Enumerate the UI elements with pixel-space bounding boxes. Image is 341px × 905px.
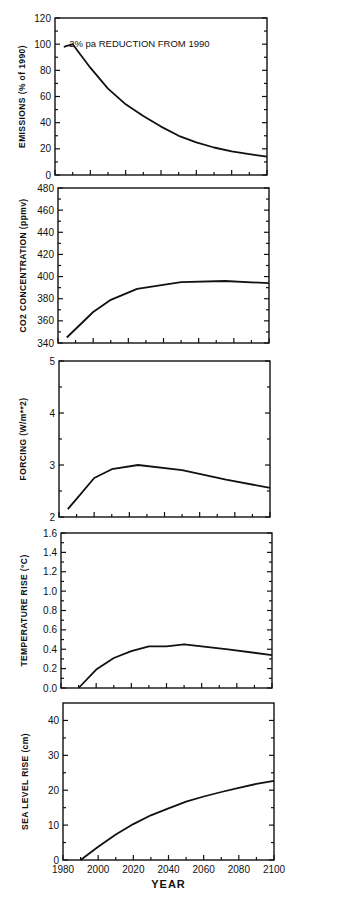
plot-frame: [58, 188, 269, 343]
series-line: [67, 281, 269, 338]
x-axis-label: YEAR: [151, 878, 186, 890]
y-tick-label: 1.4: [43, 547, 57, 558]
y-tick-label: 360: [37, 315, 54, 326]
y-tick-label: 0.0: [43, 683, 57, 694]
x-tick-label: 2020: [122, 864, 145, 875]
series-line: [68, 465, 270, 509]
x-tick-label: 2040: [157, 864, 180, 875]
y-tick-label: 30: [48, 750, 60, 761]
y-tick-label: 480: [37, 183, 54, 194]
y-tick-label: 0.6: [43, 624, 57, 635]
y-axis-label: SEA LEVEL RISE (cm): [20, 733, 30, 830]
x-tick-label: 2080: [228, 864, 251, 875]
y-tick-label: 0: [45, 170, 51, 181]
y-tick-label: 1.2: [43, 566, 57, 577]
x-tick-label: 2000: [87, 864, 110, 875]
x-tick-label: 2100: [263, 864, 286, 875]
y-tick-label: 40: [40, 117, 52, 128]
y-tick-label: 3: [49, 460, 55, 471]
panel-1: 020406080100120EMISSIONS (% of 1990)2% p…: [17, 13, 267, 181]
y-tick-label: 20: [48, 785, 60, 796]
y-tick-label: 20: [40, 143, 52, 154]
series-line: [79, 644, 272, 688]
panel-4: 0.00.20.40.60.81.01.21.41.6TEMPERATURE R…: [19, 528, 272, 694]
y-tick-label: 120: [34, 13, 51, 24]
y-tick-label: 4: [49, 408, 55, 419]
x-tick-label: 2060: [193, 864, 216, 875]
y-tick-label: 0.4: [43, 644, 57, 655]
y-tick-label: 0.8: [43, 605, 57, 616]
y-tick-label: 5: [49, 356, 55, 367]
y-tick-label: 1.0: [43, 586, 57, 597]
y-tick-label: 380: [37, 293, 54, 304]
y-axis-label: FORCING (W/m**2): [18, 398, 28, 481]
y-tick-label: 0.2: [43, 663, 57, 674]
series-line: [81, 781, 274, 860]
series-line: [64, 44, 267, 157]
panel-5: 0102030401980200020202040206020802100YEA…: [20, 703, 286, 890]
panel-3: 2345FORCING (W/m**2): [18, 356, 270, 523]
y-tick-label: 440: [37, 227, 54, 238]
y-tick-label: 420: [37, 249, 54, 260]
y-tick-label: 40: [48, 715, 60, 726]
panel-2: 340360380400420440460480CO2 CONCENTRATIO…: [18, 183, 269, 349]
plot-frame: [63, 703, 274, 860]
y-tick-label: 60: [40, 91, 52, 102]
y-tick-label: 460: [37, 205, 54, 216]
y-tick-label: 1.6: [43, 528, 57, 539]
climate-scenario-chart: 020406080100120EMISSIONS (% of 1990)2% p…: [0, 0, 341, 905]
y-tick-label: 100: [34, 39, 51, 50]
y-axis-label: EMISSIONS (% of 1990): [17, 45, 27, 148]
y-tick-label: 2: [49, 512, 55, 523]
y-tick-label: 10: [48, 820, 60, 831]
y-axis-label: TEMPERATURE RISE (°C): [19, 554, 29, 666]
plot-frame: [61, 533, 272, 688]
y-tick-label: 340: [37, 338, 54, 349]
x-tick-label: 1980: [52, 864, 75, 875]
y-tick-label: 80: [40, 65, 52, 76]
chart-annotation: 2% pa REDUCTION FROM 1990: [69, 38, 209, 49]
plot-frame: [59, 361, 270, 517]
y-axis-label: CO2 CONCENTRATION (ppmv): [18, 198, 28, 332]
y-tick-label: 400: [37, 271, 54, 282]
